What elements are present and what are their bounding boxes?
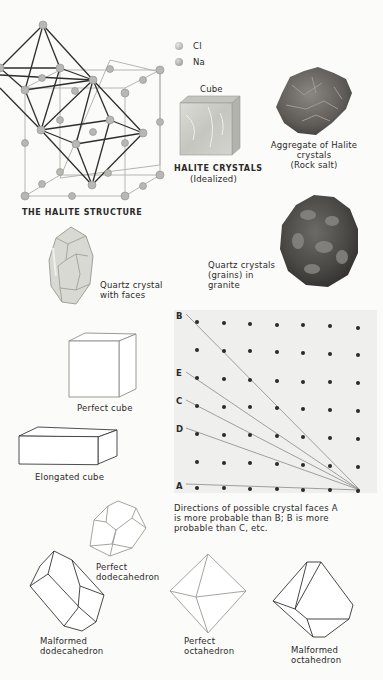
line-label-a: A	[176, 481, 183, 491]
malformed-dodecahedron-drawing	[28, 550, 106, 632]
lattice-points-and-lines	[174, 310, 377, 493]
perfect-octahedron-label: Perfect octahedron	[184, 636, 234, 656]
line-label-e: E	[176, 368, 182, 378]
halite-crystals-title: HALITE CRYSTALS	[174, 164, 263, 174]
halite-structure-title: THE HALITE STRUCTURE	[22, 208, 142, 218]
malformed-octahedron-drawing	[273, 561, 355, 639]
lattice-caption: Directions of possible crystal faces A i…	[174, 503, 379, 533]
halite-crystals-subtitle: (Idealized)	[190, 174, 237, 184]
legend-item-na: Na	[175, 54, 205, 70]
perfect-octahedron-drawing	[168, 553, 248, 635]
granite-image	[278, 191, 360, 289]
halite-structure-diagram	[0, 0, 170, 200]
line-label-b: B	[176, 311, 183, 321]
perfect-cube-label: Perfect cube	[77, 403, 133, 413]
malformed-dodecahedron-label: Malformed dodecahedron	[40, 636, 103, 656]
rock-salt-image	[272, 65, 354, 137]
line-label-d: D	[176, 424, 184, 434]
malformed-octahedron-label: Malformed octahedron	[291, 645, 341, 665]
line-label-c: C	[176, 396, 183, 406]
rock-salt-caption: Aggregate of Halite crystals (Rock salt)	[268, 140, 360, 170]
granite-caption: Quartz crystals (grains) in granite	[208, 260, 275, 290]
perfect-cube-drawing	[68, 332, 138, 398]
quartz-crystal-image	[48, 226, 94, 306]
cl-atom-icon	[175, 42, 183, 50]
cube-label: Cube	[200, 84, 223, 94]
elongated-cube-drawing	[18, 426, 118, 466]
na-atom-icon	[175, 58, 183, 66]
legend: Cl Na	[175, 38, 205, 70]
elongated-cube-label: Elongated cube	[35, 472, 104, 482]
legend-item-cl: Cl	[175, 38, 205, 54]
halite-cube-image	[178, 95, 240, 155]
quartz-crystal-caption: Quartz crystal with faces	[100, 280, 163, 300]
